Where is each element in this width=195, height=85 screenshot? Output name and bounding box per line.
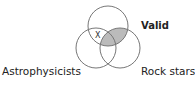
label-astrophysicists: Astrophysicists: [2, 65, 81, 77]
label-rock-stars: Rock stars: [141, 65, 195, 77]
x-marker: X: [95, 31, 101, 40]
label-valid: Valid: [141, 20, 169, 31]
